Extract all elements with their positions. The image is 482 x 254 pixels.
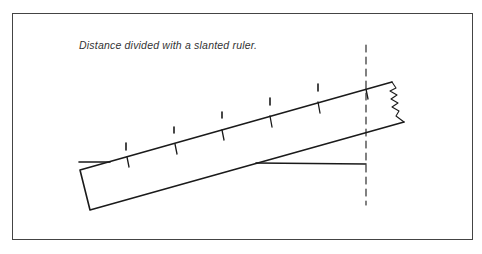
ruler-ticks bbox=[127, 89, 368, 167]
diagram-caption: Distance divided with a slanted ruler. bbox=[79, 39, 257, 51]
torn-end bbox=[390, 82, 404, 122]
baseline-right bbox=[256, 163, 366, 164]
slanted-ruler bbox=[80, 82, 404, 210]
division-ticks bbox=[126, 84, 318, 150]
